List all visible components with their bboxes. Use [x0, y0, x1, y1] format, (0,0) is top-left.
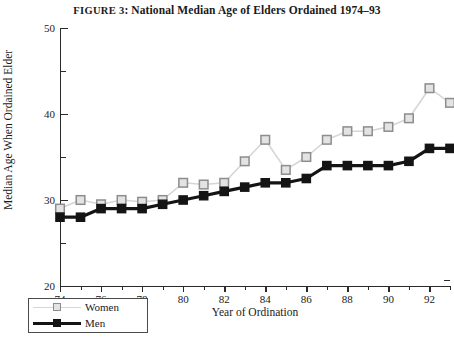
open-square-icon [53, 303, 61, 311]
filled-square-icon [53, 319, 61, 327]
filled-square-icon [241, 183, 249, 191]
x-tick-major [265, 286, 266, 292]
x-tick-minor [204, 286, 205, 290]
open-square-icon [179, 179, 188, 188]
filled-square-icon [261, 179, 269, 187]
filled-square-icon [200, 192, 208, 200]
legend-label-men: Men [85, 317, 105, 329]
x-tick-minor [245, 286, 246, 290]
filled-square-icon [405, 157, 413, 165]
x-tick-major [306, 286, 307, 292]
legend-item-men: Men [29, 315, 149, 331]
figure-title: FIGURE 3: National Median Age of Elders … [0, 4, 454, 16]
data-series-layer [60, 28, 450, 286]
x-tick-label: 88 [342, 293, 353, 305]
filled-square-icon [220, 187, 228, 195]
chart-legend: Women Men [28, 298, 148, 333]
series-men [56, 144, 454, 221]
figure-title-text: : National Median Age of Elders Ordained… [124, 4, 380, 16]
open-square-icon [446, 99, 454, 108]
x-tick-major [388, 286, 389, 292]
open-square-icon [76, 196, 85, 205]
x-tick-label: 86 [301, 293, 312, 305]
filled-square-icon [179, 196, 187, 204]
filled-square-icon [425, 144, 433, 152]
x-tick-minor [327, 286, 328, 290]
open-square-icon [343, 127, 352, 136]
open-square-icon [384, 123, 393, 132]
x-tick-label: 84 [260, 293, 271, 305]
x-tick-minor [81, 286, 82, 290]
filled-square-icon [446, 144, 454, 152]
figure-container: FIGURE 3: National Median Age of Elders … [0, 0, 454, 339]
open-square-icon [261, 136, 270, 145]
filled-square-icon [302, 174, 310, 182]
filled-square-icon [138, 205, 146, 213]
x-tick-label: 82 [219, 293, 230, 305]
open-square-icon [240, 157, 249, 166]
figure-number-label: FIGURE 3 [73, 5, 124, 16]
x-tick-minor [409, 286, 410, 290]
x-tick-minor [286, 286, 287, 290]
series-women [56, 84, 454, 213]
x-tick-major [224, 286, 225, 292]
filled-square-icon [159, 200, 167, 208]
x-tick-major [429, 286, 430, 292]
filled-square-icon [117, 205, 125, 213]
open-square-icon [425, 84, 434, 93]
x-tick-major [60, 286, 61, 292]
y-tick-label: 30 [44, 195, 55, 206]
x-tick-label: 80 [178, 293, 189, 305]
open-square-icon [199, 180, 208, 189]
x-tick-minor [450, 286, 451, 290]
filled-square-icon [282, 179, 290, 187]
filled-square-icon [76, 213, 84, 221]
x-tick-label: 92 [424, 293, 435, 305]
legend-item-women: Women [29, 299, 149, 315]
x-tick-minor [163, 286, 164, 290]
filled-square-icon [384, 162, 392, 170]
open-square-icon [281, 166, 290, 175]
y-tick-label: 20 [44, 281, 55, 292]
open-square-icon [302, 153, 311, 162]
y-tick-major [61, 286, 68, 287]
open-square-icon [117, 196, 126, 205]
y-axis-title: Median Age When Ordained Elder [2, 50, 14, 210]
filled-square-icon [343, 162, 351, 170]
filled-square-icon [97, 205, 105, 213]
open-square-icon [405, 114, 414, 123]
x-tick-major [347, 286, 348, 292]
x-tick-major [142, 286, 143, 292]
legend-sample-men [29, 315, 85, 331]
legend-sample-women [29, 299, 85, 315]
open-square-icon [56, 204, 65, 213]
x-tick-label: 90 [383, 293, 394, 305]
y-tick-label: 50 [44, 23, 55, 34]
x-tick-major [101, 286, 102, 292]
x-axis-line [60, 286, 450, 287]
series-line [60, 88, 450, 208]
y-tick-label: 40 [44, 109, 55, 120]
filled-square-icon [323, 162, 331, 170]
open-square-icon [220, 179, 229, 188]
filled-square-icon [364, 162, 372, 170]
x-tick-major [183, 286, 184, 292]
legend-label-women: Women [85, 301, 119, 313]
plot-area: 20304050 74767880828486889092 [60, 28, 450, 286]
x-tick-minor [368, 286, 369, 290]
open-square-icon [364, 127, 373, 136]
filled-square-icon [56, 213, 64, 221]
x-tick-minor [122, 286, 123, 290]
open-square-icon [323, 136, 332, 145]
